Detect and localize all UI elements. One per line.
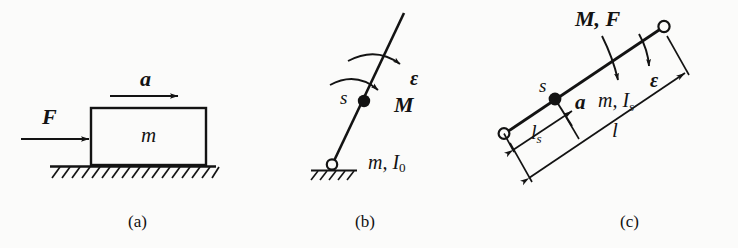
pin-ground-hatching-b bbox=[311, 171, 354, 180]
dim-ext-left-long-c bbox=[510, 143, 532, 182]
mechanics-figure: F a m (a) ε M s m, I0 (b) M, F ε s a m, … bbox=[0, 0, 738, 248]
label-mass-inertia-b-sub: 0 bbox=[399, 160, 406, 175]
pin-support-b bbox=[327, 159, 337, 169]
bar-c bbox=[507, 28, 662, 132]
caption-c: (c) bbox=[620, 213, 639, 230]
caption-a: (a) bbox=[128, 213, 147, 230]
label-mass-inertia-c-main: m, I bbox=[598, 89, 629, 111]
dim-line-ls-c bbox=[513, 111, 572, 150]
diagram-canvas bbox=[0, 0, 738, 248]
caption-b: (b) bbox=[355, 213, 375, 230]
dim-ext-com-c bbox=[566, 117, 579, 139]
bar-end-right-c bbox=[658, 21, 669, 32]
label-acceleration-a: a bbox=[140, 68, 151, 90]
label-mass-inertia-b-main: m, I bbox=[368, 151, 399, 173]
label-epsilon-c: ε bbox=[650, 70, 658, 90]
label-center-of-mass-c: s bbox=[539, 76, 546, 95]
label-length-partial-c: ls bbox=[531, 122, 542, 145]
label-moment-b: M bbox=[394, 94, 414, 116]
label-mass-inertia-c: m, Is bbox=[598, 90, 634, 113]
label-mass-inertia-b: m, I0 bbox=[368, 152, 406, 175]
dim-ext-right-long-c bbox=[667, 36, 689, 75]
label-acceleration-c: a bbox=[575, 92, 586, 113]
panel-c-graphics bbox=[499, 21, 689, 182]
label-epsilon-b: ε bbox=[410, 68, 418, 88]
label-length-partial-c-sub: s bbox=[537, 131, 542, 146]
label-length-total-c: l bbox=[612, 120, 618, 141]
label-center-of-mass-b: s bbox=[340, 88, 347, 107]
epsilon-curve-b bbox=[348, 54, 400, 64]
label-mass-a: m bbox=[141, 125, 156, 146]
ground-hatching bbox=[52, 167, 219, 178]
label-force-a: F bbox=[42, 106, 57, 128]
label-mass-inertia-c-sub: s bbox=[629, 99, 634, 114]
label-moment-force-c: M, F bbox=[575, 8, 620, 30]
center-of-mass-dot-b bbox=[358, 95, 370, 107]
